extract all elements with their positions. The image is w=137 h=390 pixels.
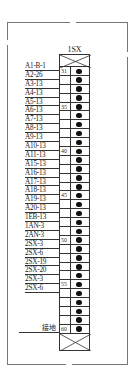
terminal-row xyxy=(59,94,90,103)
terminal-block-footer-cross xyxy=(59,334,90,351)
terminal-block-title: 1SX xyxy=(59,45,90,54)
terminal-row xyxy=(59,129,90,138)
terminal-dot-icon xyxy=(76,104,82,110)
wire-label: A6-13 xyxy=(25,106,59,115)
cell-divider xyxy=(70,147,71,155)
wire-label: 2SX-3 xyxy=(25,275,59,284)
wire-label: A3-13 xyxy=(25,80,59,89)
terminal-dot-icon xyxy=(76,220,82,226)
terminal-row xyxy=(59,120,90,129)
terminal-row: 45 xyxy=(59,191,90,200)
terminal-number: 45 xyxy=(61,191,67,199)
terminal-dot-icon xyxy=(76,95,82,101)
terminal-row xyxy=(59,298,90,307)
terminal-dot-icon xyxy=(76,184,82,190)
wire-label: A18-13 xyxy=(25,186,59,195)
terminal-row xyxy=(59,165,90,174)
wire-label: A1-B-1 xyxy=(25,62,59,71)
cell-divider xyxy=(70,307,71,315)
terminal-dot-icon xyxy=(76,273,82,279)
terminal-row: 35 xyxy=(59,103,90,112)
wire-label: 2SX-20 xyxy=(25,266,59,275)
wire-label: A7-13 xyxy=(25,115,59,124)
terminal-row: 50 xyxy=(59,236,90,245)
terminal-row xyxy=(59,254,90,263)
wire-label-empty xyxy=(25,311,59,320)
wire-label: 1AN-3 xyxy=(25,222,59,231)
wire-label: A19-13 xyxy=(25,195,59,204)
wire-label: 1EB-13 xyxy=(25,213,59,222)
terminal-dot-icon xyxy=(76,237,82,243)
terminal-dot-icon xyxy=(76,86,82,92)
terminal-row xyxy=(59,200,90,209)
cell-divider xyxy=(70,165,71,173)
cell-divider xyxy=(70,76,71,84)
frame-gap xyxy=(126,52,130,57)
cell-divider xyxy=(70,85,71,93)
cell-divider xyxy=(70,183,71,191)
frame-gap xyxy=(66,363,72,367)
wire-labels: A1-B-1A2-26A3-13A4-13A5-13A6-13A7-13A8-1… xyxy=(25,62,59,320)
wire-label: A5-13 xyxy=(25,98,59,107)
cell-divider xyxy=(70,289,71,297)
wire-label-empty xyxy=(25,293,59,302)
wire-label: 2SX-3 xyxy=(25,240,59,249)
terminal-row: 55 xyxy=(59,280,90,289)
terminal-dot-icon xyxy=(76,211,82,217)
terminal-dot-icon xyxy=(76,166,82,172)
terminal-dot-icon xyxy=(76,300,82,306)
cell-divider xyxy=(70,254,71,262)
cell-divider xyxy=(70,209,71,217)
wire-label: 2AN-3 xyxy=(25,231,59,240)
terminal-dot-icon xyxy=(76,326,82,332)
wire-label: 2SX-6 xyxy=(25,249,59,258)
cell-divider xyxy=(70,236,71,244)
cell-divider xyxy=(70,94,71,102)
terminal-dot-icon xyxy=(76,282,82,288)
cell-divider xyxy=(70,67,71,75)
terminal-number: 31 xyxy=(61,67,67,75)
terminal-row: 31 xyxy=(59,67,90,76)
terminal-row xyxy=(59,316,90,325)
terminal-dot-icon xyxy=(76,157,82,163)
cell-divider xyxy=(70,120,71,128)
terminal-dot-icon xyxy=(76,131,82,137)
cell-divider xyxy=(70,200,71,208)
terminal-row xyxy=(59,307,90,316)
wire-label: 2SX-19 xyxy=(25,258,59,267)
cell-divider xyxy=(70,111,71,119)
cell-divider xyxy=(70,218,71,226)
cell-divider xyxy=(70,138,71,146)
terminal-dot-icon xyxy=(76,264,82,270)
wire-label: 2SX-6 xyxy=(25,284,59,293)
terminal-row xyxy=(59,289,90,298)
wire-label-empty xyxy=(25,302,59,311)
terminal-dot-icon xyxy=(76,193,82,199)
cell-divider xyxy=(70,325,71,333)
wire-label: A2-26 xyxy=(25,71,59,80)
wire-label: A16-13 xyxy=(25,169,59,178)
cell-divider xyxy=(70,316,71,324)
terminal-number: 40 xyxy=(61,147,67,155)
terminal-row: 40 xyxy=(59,147,90,156)
terminal-number: 60 xyxy=(61,325,67,333)
terminal-row xyxy=(59,174,90,183)
terminal-row: 60 xyxy=(59,325,90,334)
cell-divider xyxy=(70,298,71,306)
cell-divider xyxy=(70,191,71,199)
terminal-dot-icon xyxy=(76,255,82,261)
terminal-row xyxy=(59,183,90,192)
terminal-row xyxy=(59,156,90,165)
frame-gap xyxy=(70,20,76,24)
terminal-block: 31354045505560 xyxy=(59,54,90,351)
ground-label: 接地 xyxy=(19,324,59,333)
cell-divider xyxy=(70,271,71,279)
terminal-row xyxy=(59,138,90,147)
terminal-block-header-cross xyxy=(59,54,90,67)
terminal-dot-icon xyxy=(76,140,82,146)
terminal-row xyxy=(59,263,90,272)
wire-label: A17-13 xyxy=(25,178,59,187)
wire-label: A8-13 xyxy=(25,124,59,133)
terminal-dot-icon xyxy=(76,291,82,297)
terminal-dot-icon xyxy=(76,175,82,181)
